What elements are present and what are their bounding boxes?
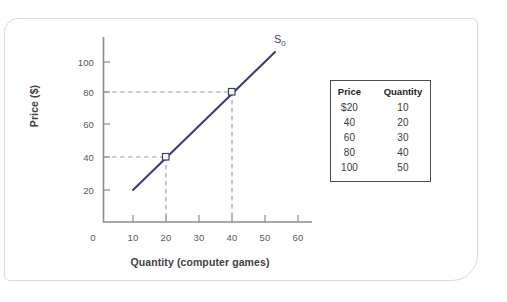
table-header-row: Price Quantity: [331, 85, 430, 100]
screenshot-root: S0 100 80 60 40 20 0 10 20 30 40 50 60 Q…: [0, 0, 507, 302]
table-cell-price: 40: [331, 115, 376, 130]
y-tick-label-100: 100: [70, 57, 94, 68]
data-point-marker-q20-p40: [163, 154, 170, 161]
y-tick-label-40: 40: [70, 152, 94, 163]
table-row: 40 20: [331, 115, 430, 130]
table-cell-price: 100: [331, 161, 376, 176]
series-label-s0: S0: [274, 33, 286, 48]
supply-curve-figure: S0 100 80 60 40 20 0 10 20 30 40 50 60 Q…: [0, 0, 507, 302]
x-tick-label-20: 20: [161, 232, 172, 243]
table-row: 100 50: [331, 161, 430, 176]
table-cell-quantity: 50: [376, 161, 430, 176]
x-axis-ticks: [133, 215, 298, 222]
table-header-price: Price: [331, 85, 376, 100]
x-tick-label-40: 40: [227, 232, 238, 243]
table-cell-price: $20: [331, 100, 376, 115]
table-header-quantity: Quantity: [376, 85, 430, 100]
table-cell-quantity: 30: [376, 130, 430, 145]
x-tick-label-30: 30: [194, 232, 205, 243]
table-cell-quantity: 10: [376, 100, 430, 115]
x-axis-title: Quantity (computer games): [0, 256, 400, 268]
table-cell-quantity: 20: [376, 115, 430, 130]
price-quantity-table: Price Quantity $20 10 40 20 60 3: [330, 80, 431, 182]
table-cell-price: 60: [331, 130, 376, 145]
y-axis-title: Price ($): [28, 66, 40, 146]
data-point-marker-q40-p80: [229, 89, 236, 96]
x-tick-label-0: 0: [90, 232, 95, 243]
supply-curve-line: [133, 52, 275, 190]
y-tick-label-20: 20: [70, 185, 94, 196]
table-row: 60 30: [331, 130, 430, 145]
table-cell-quantity: 40: [376, 146, 430, 161]
table-row: $20 10: [331, 100, 430, 115]
table-row: 80 40: [331, 146, 430, 161]
table-cell-price: 80: [331, 146, 376, 161]
series-label-subscript: 0: [281, 39, 285, 48]
x-tick-label-10: 10: [128, 232, 139, 243]
x-tick-label-50: 50: [260, 232, 271, 243]
y-tick-label-80: 80: [70, 87, 94, 98]
y-tick-label-60: 60: [70, 119, 94, 130]
x-tick-label-60: 60: [293, 232, 304, 243]
